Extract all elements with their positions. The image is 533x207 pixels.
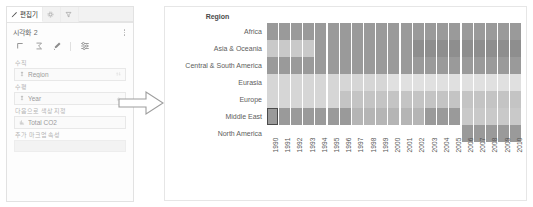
heatmap-cell[interactable]: [315, 91, 326, 108]
heatmap-cell[interactable]: [510, 74, 521, 91]
tab-filter[interactable]: [61, 7, 79, 22]
heatmap-cell[interactable]: [352, 108, 363, 125]
heatmap-cell[interactable]: [510, 91, 521, 108]
heatmap-cell[interactable]: [340, 23, 351, 40]
heatmap-cell[interactable]: [364, 108, 375, 125]
heatmap-cell[interactable]: [474, 23, 485, 40]
heatmap-cell[interactable]: [267, 57, 278, 74]
heatmap-cell[interactable]: [376, 57, 387, 74]
field-chip-empty[interactable]: [14, 140, 126, 152]
heatmap-cell[interactable]: [474, 57, 485, 74]
heatmap-cell[interactable]: [413, 74, 424, 91]
heatmap-cell[interactable]: [388, 23, 399, 40]
heatmap-cell[interactable]: [498, 108, 509, 125]
heatmap-cell[interactable]: [388, 91, 399, 108]
heatmap-cell[interactable]: [462, 40, 473, 57]
heatmap-cell[interactable]: [425, 91, 436, 108]
heatmap-cell[interactable]: [388, 40, 399, 57]
heatmap-cell[interactable]: [340, 74, 351, 91]
heatmap-cell[interactable]: [315, 23, 326, 40]
heatmap-cell[interactable]: [352, 57, 363, 74]
heatmap-cell[interactable]: [328, 23, 339, 40]
heatmap-cell[interactable]: [279, 74, 290, 91]
heatmap-cell[interactable]: [340, 91, 351, 108]
heatmap-cell[interactable]: [364, 23, 375, 40]
heatmap-cell[interactable]: [486, 74, 497, 91]
heatmap-cell[interactable]: [340, 57, 351, 74]
heatmap-cell[interactable]: [388, 74, 399, 91]
heatmap-cell[interactable]: [328, 57, 339, 74]
heatmap-cell[interactable]: [303, 40, 314, 57]
heatmap-cell[interactable]: [303, 74, 314, 91]
heatmap-cell[interactable]: [328, 74, 339, 91]
heatmap-cell[interactable]: [291, 23, 302, 40]
heatmap-cell[interactable]: [449, 74, 460, 91]
heatmap-cell[interactable]: [291, 108, 302, 125]
heatmap-cell[interactable]: [328, 40, 339, 57]
paintbrush-icon[interactable]: [51, 41, 62, 52]
more-options-icon[interactable]: [122, 27, 128, 38]
heatmap-cell[interactable]: [315, 74, 326, 91]
heatmap-cell[interactable]: [425, 108, 436, 125]
heatmap-cell[interactable]: [401, 23, 412, 40]
field-chip-year[interactable]: Year: [14, 92, 126, 105]
heatmap-cell[interactable]: [462, 91, 473, 108]
heatmap-cell[interactable]: [498, 91, 509, 108]
heatmap-cell[interactable]: [364, 40, 375, 57]
tab-editor[interactable]: 편집기: [7, 7, 43, 22]
heatmap-cell[interactable]: [462, 108, 473, 125]
heatmap-cell[interactable]: [498, 40, 509, 57]
heatmap-cell[interactable]: [267, 40, 278, 57]
heatmap-cell[interactable]: [315, 57, 326, 74]
heatmap-cell[interactable]: [437, 74, 448, 91]
heatmap-cell[interactable]: [486, 108, 497, 125]
mark-type-icon[interactable]: [15, 41, 26, 52]
heatmap-cell[interactable]: [328, 108, 339, 125]
heatmap-cell[interactable]: [267, 74, 278, 91]
heatmap-cell[interactable]: [291, 40, 302, 57]
heatmap-cell[interactable]: [352, 23, 363, 40]
heatmap-cell[interactable]: [291, 91, 302, 108]
heatmap-cell[interactable]: [462, 57, 473, 74]
heatmap-cell[interactable]: [449, 108, 460, 125]
heatmap-cell[interactable]: [425, 23, 436, 40]
heatmap-cell[interactable]: [401, 57, 412, 74]
heatmap-cell[interactable]: [291, 57, 302, 74]
field-chip-total-co2[interactable]: Total CO2: [14, 116, 126, 129]
heatmap-cell[interactable]: [486, 91, 497, 108]
heatmap-cell[interactable]: [303, 23, 314, 40]
heatmap-cell[interactable]: [437, 23, 448, 40]
heatmap-cell[interactable]: [340, 40, 351, 57]
heatmap-cell[interactable]: [425, 57, 436, 74]
heatmap-cell[interactable]: [376, 108, 387, 125]
heatmap-cell[interactable]: [279, 23, 290, 40]
heatmap-cell[interactable]: [474, 74, 485, 91]
heatmap-cell[interactable]: [340, 108, 351, 125]
heatmap-cell[interactable]: [462, 74, 473, 91]
heatmap-cell[interactable]: [437, 57, 448, 74]
heatmap-cell[interactable]: [267, 23, 278, 40]
heatmap-cell[interactable]: [498, 23, 509, 40]
heatmap-cell[interactable]: [279, 57, 290, 74]
aggregate-icon[interactable]: [33, 41, 44, 52]
heatmap-cell[interactable]: [401, 91, 412, 108]
heatmap-cell[interactable]: [388, 108, 399, 125]
heatmap-cell[interactable]: [449, 57, 460, 74]
heatmap-cell[interactable]: [364, 57, 375, 74]
field-chip-region[interactable]: Region: [14, 68, 126, 81]
heatmap-cell[interactable]: [449, 23, 460, 40]
heatmap-cell[interactable]: [474, 108, 485, 125]
heatmap-cell[interactable]: [401, 40, 412, 57]
heatmap-cell[interactable]: [462, 23, 473, 40]
tab-settings[interactable]: [43, 7, 61, 22]
heatmap-cell[interactable]: [486, 40, 497, 57]
heatmap-cell[interactable]: [303, 57, 314, 74]
heatmap-cell[interactable]: [486, 23, 497, 40]
heatmap-cell[interactable]: [449, 91, 460, 108]
heatmap-cell[interactable]: [437, 108, 448, 125]
heatmap-cell[interactable]: [425, 40, 436, 57]
heatmap-cell[interactable]: [352, 74, 363, 91]
heatmap-cell[interactable]: [401, 74, 412, 91]
heatmap-cell[interactable]: [486, 57, 497, 74]
heatmap-cell[interactable]: [279, 91, 290, 108]
